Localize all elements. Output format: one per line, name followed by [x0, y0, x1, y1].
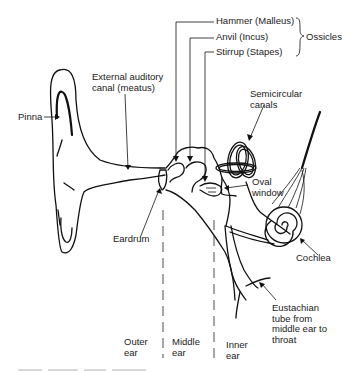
label-cochlea: Cochlea	[296, 253, 331, 264]
oval-window-leader	[226, 185, 248, 188]
eardrum-leader	[140, 190, 159, 238]
label-eardrum: Eardrum	[113, 234, 149, 245]
label-pinna: Pinna	[18, 112, 42, 123]
ossicles-brace	[296, 18, 304, 56]
eustachian-leader	[262, 284, 276, 300]
stirrup-leader	[205, 52, 214, 180]
label-eustachian-tube: Eustachian tube from middle ear to throa…	[272, 303, 327, 345]
eardrum	[159, 170, 167, 190]
helix-fold	[57, 92, 72, 135]
canal-leader	[125, 94, 128, 168]
region-middle-ear: Middle ear	[172, 337, 200, 358]
figure-caption-faded	[18, 360, 178, 366]
label-ossicles: Ossicles	[306, 32, 342, 43]
region-inner-ear: Inner ear	[226, 340, 248, 361]
label-semicircular-canals: Semicircular canals	[250, 89, 302, 110]
region-outer-ear: Outer ear	[124, 337, 148, 358]
label-oval-window: Oval window	[252, 177, 284, 198]
label-hammer: Hammer (Malleus)	[216, 16, 294, 27]
label-external-canal: External auditory canal (meatus)	[92, 72, 163, 93]
stirrup-bone	[200, 183, 222, 196]
label-anvil: Anvil (Incus)	[216, 32, 268, 43]
label-stirrup: Stirrup (Stapes)	[216, 47, 283, 58]
pinna-outline	[50, 70, 165, 253]
auditory-nerve	[302, 112, 320, 168]
anvil-leader	[190, 38, 214, 160]
ear-anatomy-diagram: Hammer (Malleus) Anvil (Incus) Stirrup (…	[0, 0, 352, 371]
hammer-leader	[176, 22, 214, 160]
hammer-bone	[168, 163, 184, 182]
semicircular-canals	[216, 141, 259, 180]
cochlea-spiral	[265, 207, 302, 246]
